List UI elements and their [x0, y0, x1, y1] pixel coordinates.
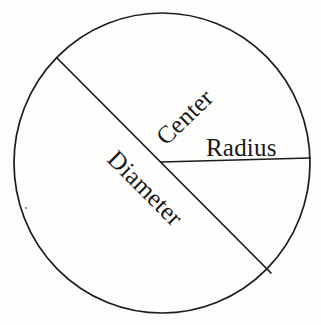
scan-speck-artifact	[25, 207, 27, 209]
radius-label: Radius	[206, 135, 277, 160]
diagram-canvas	[0, 0, 321, 325]
circle-parts-diagram: Center Radius Diameter	[0, 0, 321, 325]
diameter-line	[57, 58, 271, 273]
